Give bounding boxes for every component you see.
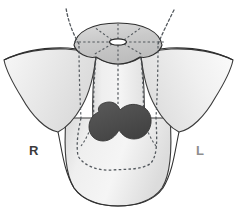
- side-label-left: L: [196, 144, 204, 157]
- side-label-right: R: [29, 144, 39, 157]
- central-aperture: [110, 39, 127, 45]
- anatomy-illustration: [0, 0, 237, 218]
- upper-projection-left-line: [158, 8, 175, 44]
- anatomy-figure: R L: [0, 0, 237, 218]
